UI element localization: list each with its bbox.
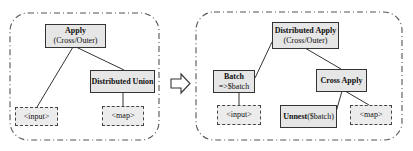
right-input-label: <input> [226, 110, 251, 120]
right-input-node: <input> [217, 105, 261, 125]
apply-title: Apply [65, 26, 86, 36]
edge-cross-apply-map [345, 91, 369, 105]
edge-apply-input [37, 47, 73, 107]
transform-arrow-icon [171, 74, 190, 93]
unnest-arg: ($batch) [307, 112, 334, 122]
edge-distributed-apply-batch [255, 42, 272, 78]
right-map-label: <map> [360, 110, 383, 120]
right-map-node: <map> [350, 105, 392, 125]
left-input-node: <input> [15, 107, 58, 126]
apply-node: Apply (Cross/Outer) [45, 24, 106, 48]
left-map-node: <map> [102, 106, 144, 126]
apply-subtitle: (Cross/Outer) [54, 36, 98, 46]
cross-apply-title: Cross Apply [321, 76, 363, 86]
distributed-union-node: Distributed Union [90, 70, 155, 93]
distributed-apply-title: Distributed Apply [275, 26, 337, 36]
distributed-apply-subtitle: (Cross/Outer) [284, 36, 328, 46]
distributed-union-title: Distributed Union [91, 77, 153, 87]
batch-title: Batch [224, 72, 244, 82]
unnest-node: Unnest($batch) [280, 105, 337, 128]
distributed-apply-node: Distributed Apply (Cross/Outer) [272, 22, 339, 49]
batch-subtitle: =>$batch [219, 82, 249, 92]
edge-apply-distributed-union [76, 47, 124, 70]
left-map-label: <map> [112, 111, 135, 121]
left-input-label: <input> [24, 112, 49, 122]
unnest-title: Unnest [283, 112, 307, 122]
cross-apply-node: Cross Apply [316, 69, 367, 92]
edge-distributed-apply-cross-apply [305, 48, 341, 69]
batch-node: Batch =>$batch [213, 70, 255, 93]
